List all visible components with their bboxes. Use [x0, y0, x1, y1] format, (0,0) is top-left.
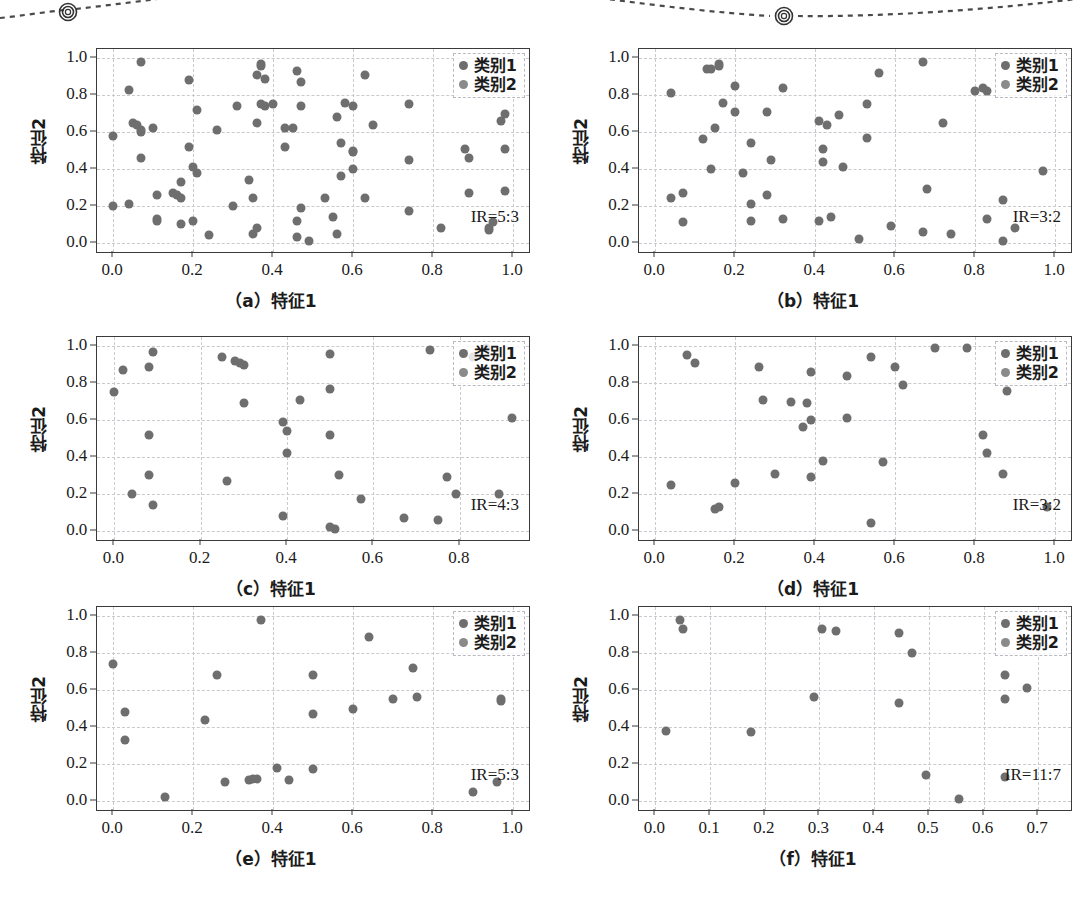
data-point [451, 489, 460, 498]
x-axis-tick-label: 0.6 [341, 260, 362, 280]
plot-area-c: IR=4:3类别1类别2 [96, 336, 530, 541]
legend-label: 类别2 [474, 634, 517, 652]
data-point [799, 423, 808, 432]
legend: 类别1类别2 [995, 53, 1067, 98]
legend-marker-icon [1001, 368, 1010, 377]
y-axis-tick-label: 1.0 [66, 605, 87, 625]
x-axis-tick-label: 0.5 [917, 818, 938, 838]
data-point [899, 380, 908, 389]
legend-item-1[interactable]: 类别1 [459, 615, 517, 633]
y-axis-tick-label: 0.2 [66, 753, 87, 773]
gridline-horizontal [639, 494, 1071, 495]
data-point [747, 216, 756, 225]
data-point [213, 671, 222, 680]
legend-item-2[interactable]: 类别2 [459, 76, 517, 94]
legend-item-1[interactable]: 类别1 [1001, 615, 1059, 633]
gridline-vertical [819, 607, 820, 810]
legend-item-2[interactable]: 类别2 [1001, 364, 1059, 382]
y-axis-tick-label: 0.2 [66, 483, 87, 503]
legend-marker-icon [1001, 61, 1010, 70]
data-point [109, 131, 118, 140]
data-point [867, 519, 876, 528]
y-axis-tick-label: 1.0 [66, 47, 87, 67]
data-point [349, 704, 358, 713]
scatter-panel-f: IR=11:7类别1类别20.00.20.40.60.81.00.00.10.2… [542, 588, 1084, 873]
legend-item-1[interactable]: 类别1 [1001, 345, 1059, 363]
x-axis-tick-mark [814, 539, 815, 545]
y-axis-tick-mark [90, 455, 96, 456]
x-axis-tick-label: 0.2 [181, 260, 202, 280]
legend-item-2[interactable]: 类别2 [459, 364, 517, 382]
concentric-ring-icon-left [60, 4, 77, 21]
data-point [222, 476, 231, 485]
gridline-horizontal [97, 169, 529, 170]
legend-item-1[interactable]: 类别1 [459, 57, 517, 75]
data-point [763, 190, 772, 199]
y-axis-tick-mark [632, 241, 638, 242]
x-axis-tick-label: 0.0 [101, 260, 122, 280]
imbalance-ratio-annotation: IR=5:3 [471, 765, 519, 785]
data-point [253, 224, 262, 233]
x-axis-tick-mark [512, 251, 513, 257]
x-axis-tick-mark [818, 809, 819, 815]
y-axis-label: 特征2 [26, 676, 51, 722]
y-axis-tick-label: 0.6 [608, 409, 629, 429]
gridline-vertical [929, 607, 930, 810]
data-point [297, 78, 306, 87]
x-axis-tick-mark [112, 809, 113, 815]
data-point [676, 615, 685, 624]
concentric-ring-icon-right [776, 8, 793, 25]
data-point [879, 458, 888, 467]
legend-item-2[interactable]: 类别2 [1001, 634, 1059, 652]
gridline-horizontal [639, 690, 1071, 691]
x-axis-tick-mark [192, 809, 193, 815]
legend-label: 类别2 [1016, 364, 1059, 382]
data-point [787, 397, 796, 406]
y-axis-tick-mark [632, 131, 638, 132]
data-point [759, 395, 768, 404]
data-point [305, 236, 314, 245]
data-point [731, 81, 740, 90]
data-point [293, 233, 302, 242]
legend-label: 类别2 [1016, 76, 1059, 94]
y-axis-tick-mark [90, 762, 96, 763]
data-point [285, 776, 294, 785]
y-axis-tick-label: 0.0 [66, 232, 87, 252]
data-point [501, 109, 510, 118]
y-axis-tick-mark [632, 382, 638, 383]
x-axis-tick-mark [894, 539, 895, 545]
data-point [153, 190, 162, 199]
y-axis-tick-label: 0.8 [66, 372, 87, 392]
data-point [193, 168, 202, 177]
gridline-horizontal [639, 531, 1071, 532]
data-point [281, 142, 290, 151]
data-point [919, 227, 928, 236]
legend: 类别1类别2 [453, 341, 525, 386]
data-point [185, 142, 194, 151]
artifact-svg [0, 0, 1084, 34]
y-axis-tick-label: 0.8 [66, 84, 87, 104]
data-point [662, 726, 671, 735]
y-axis-tick-mark [632, 652, 638, 653]
x-axis-tick-mark [654, 539, 655, 545]
imbalance-ratio-annotation: IR=11:7 [1005, 765, 1061, 785]
y-axis-tick-label: 0.6 [608, 121, 629, 141]
data-point [121, 735, 130, 744]
legend-item-1[interactable]: 类别1 [459, 345, 517, 363]
legend-item-1[interactable]: 类别1 [1001, 57, 1059, 75]
legend-item-2[interactable]: 类别2 [1001, 76, 1059, 94]
y-axis-tick-mark [90, 57, 96, 58]
gridline-horizontal [639, 169, 1071, 170]
data-point [1001, 695, 1010, 704]
data-point [763, 107, 772, 116]
x-axis-tick-mark [734, 251, 735, 257]
y-axis-tick-label: 0.4 [66, 446, 87, 466]
x-axis-tick-label: 0.2 [189, 548, 210, 568]
data-point [855, 235, 864, 244]
data-point [1023, 684, 1032, 693]
y-axis-tick-mark [90, 204, 96, 205]
gridline-horizontal [97, 457, 529, 458]
legend-item-2[interactable]: 类别2 [459, 634, 517, 652]
x-axis-tick-mark [709, 809, 710, 815]
data-point [931, 344, 940, 353]
